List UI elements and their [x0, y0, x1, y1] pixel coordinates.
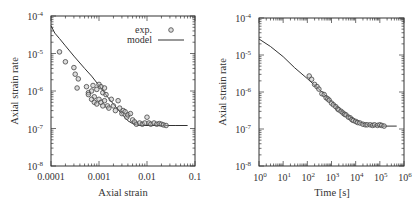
right-exp-markers — [307, 74, 387, 129]
right-ticks — [259, 18, 404, 166]
figure: 10-410-510-610-710-8 0.0001 0.001 0.01 0… — [0, 0, 419, 206]
right-y-tick-4: 10-8 — [235, 160, 251, 172]
data-point — [317, 87, 322, 92]
legend-model-label: model — [127, 34, 152, 45]
left-exp-markers — [57, 50, 168, 128]
right-x-tick-labels: 100101102103104105106 — [253, 171, 412, 183]
right-y-tick-1: 10-5 — [235, 49, 251, 61]
left-x-tick-2: 0.01 — [138, 171, 156, 182]
right-model-line — [259, 39, 397, 126]
data-point — [63, 60, 68, 65]
data-point — [84, 84, 89, 89]
right-plot-frame — [259, 18, 404, 166]
data-point — [128, 111, 133, 116]
data-point — [73, 72, 78, 77]
data-point — [102, 98, 107, 103]
right-y-tick-3: 10-7 — [235, 123, 251, 135]
data-point — [76, 77, 81, 82]
right-x-tick-2: 102 — [302, 171, 316, 183]
right-x-tick-1: 101 — [277, 171, 291, 183]
data-point — [107, 106, 112, 111]
right-x-tick-6: 106 — [398, 171, 412, 183]
right-chart: 10-410-510-610-710-8 1001011021031041051… — [217, 12, 412, 198]
left-y-tick-1: 10-5 — [27, 48, 43, 60]
right-y-tick-labels: 10-410-510-610-710-8 — [235, 12, 251, 172]
right-x-tick-5: 105 — [374, 171, 388, 183]
left-y-tick-2: 10-6 — [27, 85, 43, 97]
data-point — [113, 108, 118, 113]
legend: exp. model — [127, 24, 184, 45]
left-x-tick-labels: 0.0001 0.001 0.01 0.1 — [37, 171, 201, 182]
data-point — [145, 115, 150, 120]
right-y-tick-2: 10-6 — [235, 86, 251, 98]
left-ticks — [51, 16, 195, 166]
right-x-tick-0: 100 — [253, 171, 267, 183]
left-x-tick-1: 0.001 — [88, 171, 111, 182]
left-x-tick-3: 0.1 — [189, 171, 202, 182]
right-x-axis-title: Time [s] — [314, 187, 350, 198]
right-x-tick-3: 103 — [326, 171, 340, 183]
data-point — [72, 65, 77, 70]
left-y-tick-3: 10-7 — [27, 123, 43, 135]
left-x-axis-title: Axial strain — [98, 187, 148, 198]
data-point — [164, 123, 169, 128]
right-y-tick-0: 10-4 — [235, 12, 251, 24]
data-point — [309, 77, 314, 82]
left-x-tick-0: 0.0001 — [37, 171, 65, 182]
left-chart: 10-410-510-610-710-8 0.0001 0.001 0.01 0… — [9, 10, 201, 198]
data-point — [111, 104, 116, 109]
data-point — [101, 104, 106, 109]
left-y-tick-labels: 10-410-510-610-710-8 — [27, 10, 43, 172]
legend-exp-marker — [169, 28, 174, 33]
data-point — [104, 92, 109, 97]
data-point — [86, 92, 91, 97]
data-point — [75, 86, 80, 91]
left-y-tick-0: 10-4 — [27, 10, 43, 22]
data-point — [95, 87, 100, 92]
data-point — [109, 97, 114, 102]
data-point — [102, 86, 107, 91]
right-y-axis-title: Axial strain rate — [217, 58, 228, 126]
data-point — [116, 98, 121, 103]
data-point — [382, 124, 387, 129]
data-point — [91, 83, 96, 88]
data-point — [57, 50, 62, 55]
left-y-axis-title: Axial strain rate — [9, 57, 20, 125]
right-x-tick-4: 104 — [350, 171, 364, 183]
left-plot-frame — [51, 16, 195, 166]
